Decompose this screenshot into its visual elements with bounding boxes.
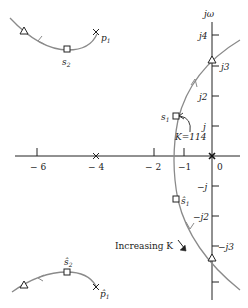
svg-text:−j: −j bbox=[197, 182, 208, 192]
svg-text:j4: j4 bbox=[197, 31, 208, 41]
triangle-marker bbox=[208, 254, 216, 261]
svg-text:− 6: − 6 bbox=[30, 162, 46, 172]
point-s2 bbox=[64, 46, 70, 52]
svg-text:−j3: −j3 bbox=[218, 242, 234, 252]
point-s1-hat bbox=[173, 196, 179, 202]
svg-text:0: 0 bbox=[217, 162, 223, 172]
triangle-marker bbox=[20, 281, 28, 288]
point-s1 bbox=[173, 113, 179, 119]
svg-text:− 4: − 4 bbox=[88, 162, 104, 172]
increasing-k-label: Increasing K bbox=[115, 241, 173, 251]
svg-text:s1: s1 bbox=[161, 112, 169, 123]
gain-pointer-arrow bbox=[180, 116, 190, 132]
svg-text:s2: s2 bbox=[62, 57, 71, 68]
triangle-marker bbox=[208, 56, 216, 63]
svg-text:p1: p1 bbox=[101, 33, 111, 44]
point-s2-hat bbox=[64, 269, 70, 275]
arrow-left-icon bbox=[38, 36, 44, 44]
svg-text:− 2: − 2 bbox=[145, 162, 161, 172]
svg-text:j3: j3 bbox=[219, 62, 230, 72]
pole-p1 bbox=[93, 29, 99, 35]
imag-axis-label: jω bbox=[202, 9, 215, 19]
svg-text:p̂1: p̂1 bbox=[100, 289, 110, 300]
svg-text:ŝ2: ŝ2 bbox=[64, 257, 73, 268]
svg-text:ŝ1: ŝ1 bbox=[181, 196, 189, 207]
svg-text:−j2: −j2 bbox=[193, 212, 209, 222]
svg-text:j2: j2 bbox=[197, 92, 208, 102]
svg-text:−1: −1 bbox=[178, 162, 191, 172]
svg-text:j: j bbox=[201, 122, 206, 132]
gain-annotation: K=114 bbox=[174, 132, 207, 142]
root-locus-diagram: jω − 6 − 4 − 2 −1 0 j4 j3 j2 j −j −j2 −j… bbox=[0, 0, 248, 308]
